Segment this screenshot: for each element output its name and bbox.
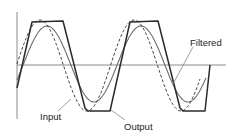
- filtered-label: Filtered: [190, 37, 222, 48]
- input-leader-line: [58, 99, 71, 111]
- waveform-diagram: Filtered Input Output: [0, 0, 235, 138]
- output-label: Output: [124, 121, 153, 132]
- input-label: Input: [40, 111, 61, 122]
- output-leader-line: [111, 110, 125, 120]
